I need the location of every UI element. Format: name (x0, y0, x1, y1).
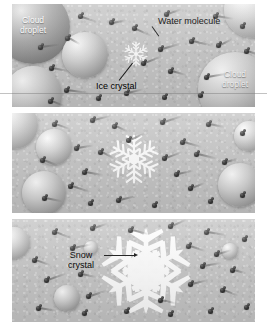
water-molecule (214, 252, 219, 257)
water-molecule (222, 160, 227, 165)
molecule-trail (166, 151, 183, 159)
snow-crystal-label-line2: crystal (68, 260, 94, 270)
water-molecule (52, 230, 57, 235)
water-molecule (88, 201, 93, 206)
cloud-droplet-label-top-line2: droplet (20, 25, 46, 35)
snow-crystal-figure: Cloud droplet Cloud droplet (0, 0, 267, 334)
water-molecule (204, 230, 209, 235)
water-molecule (188, 186, 193, 191)
water-molecule (44, 278, 49, 283)
water-molecule (152, 203, 157, 208)
water-molecule (189, 39, 194, 44)
water-molecule (40, 158, 45, 163)
water-molecule (200, 264, 205, 269)
water-molecule (162, 95, 167, 100)
scan-line-artifact (0, 93, 267, 94)
molecule-trail (130, 132, 146, 140)
water-molecule (36, 306, 41, 311)
water-molecule (158, 47, 163, 52)
molecule-trail (36, 259, 52, 266)
water-molecule (98, 150, 103, 155)
molecule-trail (78, 144, 94, 148)
panel-stage-2 (12, 113, 255, 213)
molecule-trail (136, 28, 153, 37)
water-molecule (49, 66, 54, 71)
water-molecule (240, 24, 245, 29)
cloud-droplet-label-top-line1: Cloud (22, 15, 44, 25)
molecule-trail (184, 141, 203, 148)
cloud-droplet-top-right (234, 121, 255, 151)
molecule-trail (90, 289, 108, 296)
snow-crystal-arrowhead (134, 253, 138, 257)
cloud-droplet-left (12, 227, 30, 259)
molecule-trail (94, 115, 112, 121)
molecule-trail (82, 16, 98, 22)
molecule-trail (162, 43, 182, 50)
molecule-trail (192, 279, 209, 285)
water-molecule (216, 43, 221, 48)
molecule-trail (204, 262, 222, 267)
water-molecule (112, 124, 117, 129)
molecule-trail (178, 170, 194, 175)
panel-stage-1: Cloud droplet Cloud droplet (12, 4, 255, 107)
molecule-trail (120, 195, 138, 201)
molecule-trail (132, 229, 150, 235)
water-molecule (52, 122, 57, 127)
water-molecule (240, 131, 245, 136)
water-molecule-label: Water molecule (158, 16, 220, 26)
molecule-trail (193, 40, 215, 47)
water-molecule (206, 122, 211, 127)
water-molecule (162, 156, 167, 161)
cloud-droplet-lower-left (54, 285, 80, 311)
water-molecule (204, 75, 209, 80)
molecule-trail (172, 70, 187, 76)
molecule-trail (198, 153, 218, 159)
water-molecule (116, 198, 121, 203)
molecule-trail (210, 123, 225, 128)
water-molecule (194, 152, 199, 157)
panel-stage-3: Snow crystal (12, 219, 255, 322)
ice-crystal-leader-line (119, 63, 133, 81)
water-molecule (220, 288, 225, 293)
water-molecule (48, 99, 53, 104)
molecule-trail (162, 299, 177, 304)
molecule-trail (234, 269, 247, 274)
water-molecule (126, 138, 131, 143)
water-molecule (90, 118, 95, 123)
molecule-trail (86, 171, 104, 176)
cloud-droplet-bottom-right (218, 163, 255, 207)
molecule-trail (40, 307, 57, 312)
water-molecule (230, 268, 235, 273)
water-molecule (244, 305, 249, 310)
water-molecule (42, 196, 47, 201)
ice-crystal-label: Ice crystal (96, 81, 137, 91)
water-molecule (160, 120, 165, 125)
cloud-droplet-top-left (12, 113, 38, 149)
water-molecule (109, 20, 114, 25)
molecule-trail (164, 115, 184, 123)
water-molecule (168, 224, 173, 229)
water-molecule (38, 45, 43, 50)
water-molecule (208, 199, 213, 204)
water-molecule (74, 146, 79, 151)
water-molecule (186, 244, 191, 249)
water-molecule (240, 193, 245, 198)
molecule-trail (102, 151, 115, 159)
molecule-trail (116, 125, 129, 133)
water-molecule (32, 258, 37, 263)
cloud-droplet-lower-left (22, 171, 66, 213)
water-molecule (188, 282, 193, 287)
water-molecule (128, 228, 133, 233)
cloud-droplet-label-top: Cloud droplet (12, 16, 70, 35)
molecule-trail (56, 231, 72, 239)
water-molecule (208, 309, 213, 314)
molecule-trail (224, 289, 239, 296)
molecule-trail (48, 272, 67, 280)
molecule-trail (190, 245, 207, 252)
water-molecule (168, 312, 173, 317)
water-molecule (96, 96, 101, 101)
snow-crystal-label: Snow crystal (60, 250, 102, 270)
water-molecule (68, 184, 73, 189)
ice-crystal-medium (108, 133, 160, 185)
molecule-trail (72, 185, 92, 193)
